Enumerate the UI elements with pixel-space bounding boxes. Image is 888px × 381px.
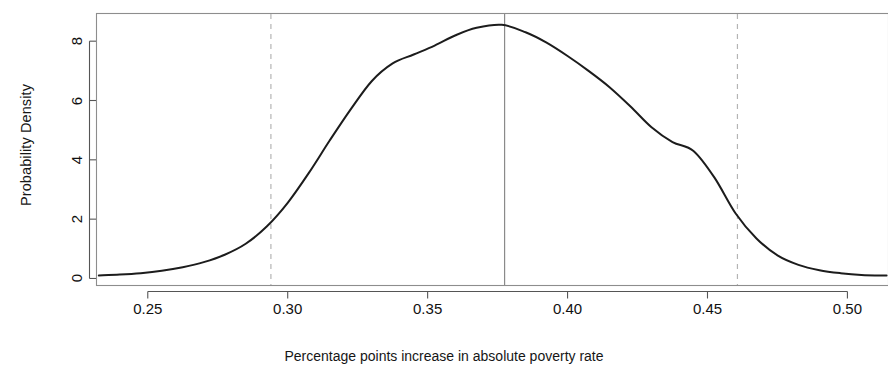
y-tick-label-1: 2 — [68, 211, 85, 227]
y-tick-label-0: 0 — [68, 270, 85, 286]
plot-canvas — [0, 0, 888, 381]
x-tick-label-5: 0.50 — [833, 300, 862, 317]
x-tick-label-3: 0.40 — [553, 300, 582, 317]
y-tick-label-3: 6 — [68, 93, 85, 109]
y-axis-title-text: Probability Density — [18, 84, 34, 206]
plot-box-border — [97, 14, 888, 286]
x-tick-label-2: 0.35 — [413, 300, 442, 317]
y-axis-title: Probability Density — [6, 0, 46, 290]
density-plot-figure: Probability Density Percentage points in… — [0, 0, 888, 381]
density-curve-0 — [99, 25, 887, 276]
y-tick-label-4: 8 — [68, 33, 85, 49]
x-tick-label-4: 0.45 — [693, 300, 722, 317]
x-tick-label-0: 0.25 — [133, 300, 162, 317]
y-tick-label-2: 4 — [68, 152, 85, 168]
x-axis-title-text: Percentage points increase in absolute p… — [284, 348, 603, 364]
x-axis-title: Percentage points increase in absolute p… — [0, 348, 888, 364]
x-tick-label-1: 0.30 — [273, 300, 302, 317]
